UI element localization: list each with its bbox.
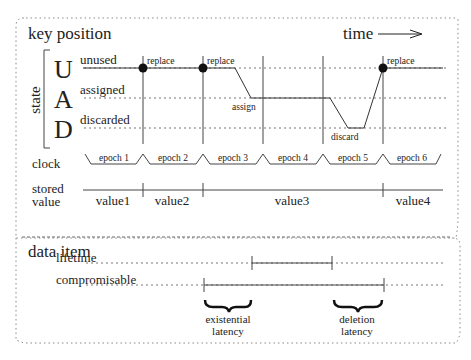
key-lifecycle-diagram: key position time state U A D unused ass… <box>0 0 471 360</box>
existential-latency-brace-icon <box>205 300 251 312</box>
key-position-frame <box>16 18 458 238</box>
epoch-6: epoch 6 <box>397 153 427 163</box>
compromisable-interval <box>204 278 384 292</box>
event-replace-1: replace <box>147 56 174 66</box>
existential-latency-label-1: existential <box>205 313 250 325</box>
state-axis-label: state <box>27 86 43 114</box>
epoch-3: epoch 3 <box>218 153 248 163</box>
epoch-1: epoch 1 <box>99 153 129 163</box>
existential-latency-label-2: latency <box>212 325 244 337</box>
value-1: value1 <box>96 193 131 208</box>
state-letter-a: A <box>54 85 73 114</box>
key-position-title: key position <box>28 24 112 43</box>
lifetime-label: lifetime <box>56 250 97 265</box>
clock-waveform <box>85 154 441 164</box>
state-letter-d: D <box>54 115 73 144</box>
event-replace-3: replace <box>387 56 414 66</box>
event-replace-2: replace <box>207 56 234 66</box>
value-2: value2 <box>155 193 190 208</box>
deletion-latency-label-1: deletion <box>339 313 375 325</box>
epoch-2: epoch 2 <box>158 153 188 163</box>
event-discard: discard <box>331 132 359 142</box>
epoch-5: epoch 5 <box>338 153 368 163</box>
stored-value-label-2: value <box>32 194 60 209</box>
state-label-assigned: assigned <box>80 82 125 97</box>
state-label-discarded: discarded <box>80 112 130 127</box>
state-letter-u: U <box>54 55 73 84</box>
lifetime-interval <box>252 256 332 270</box>
deletion-latency-label-2: latency <box>341 325 373 337</box>
state-bracket <box>44 50 50 148</box>
state-label-unused: unused <box>80 52 117 67</box>
clock-label: clock <box>32 156 61 171</box>
value-3: value3 <box>275 193 310 208</box>
epoch-4: epoch 4 <box>278 153 308 163</box>
time-arrow-icon <box>378 30 422 38</box>
value-4: value4 <box>396 193 431 208</box>
event-assign: assign <box>232 102 256 112</box>
deletion-latency-brace-icon <box>334 300 382 312</box>
time-label: time <box>343 24 373 43</box>
